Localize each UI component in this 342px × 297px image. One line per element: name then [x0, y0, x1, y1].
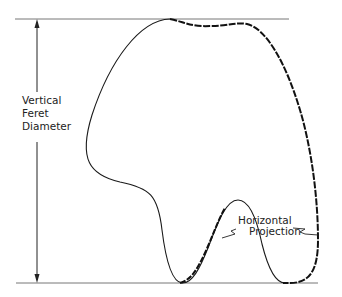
arrowhead-down-icon [35, 274, 40, 283]
horizontal-projection-dashed-top-right [170, 19, 318, 283]
feret-diagram: Vertical Feret Diameter Horizontal Proje… [0, 0, 342, 297]
horizontal-projection-dashed-left-hump [180, 208, 225, 283]
vertical-feret-label: Vertical Feret Diameter [22, 94, 72, 132]
arrowhead-up-icon [35, 19, 40, 28]
particle-outline [86, 19, 285, 283]
horizontal-projection-label: Horizontal Projection [238, 214, 301, 237]
leader-line-left [222, 229, 236, 238]
vertical-double-arrow [35, 19, 40, 283]
